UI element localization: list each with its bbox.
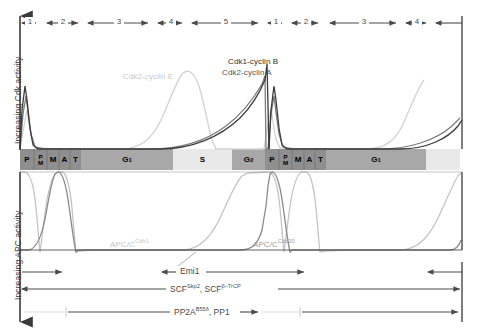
phase-cell-p-1: P bbox=[20, 149, 34, 170]
phase-cell-pm-2: P M bbox=[279, 149, 292, 170]
scf-sup2: β–TrCP bbox=[221, 283, 240, 289]
segment-number-c2-2: 2 bbox=[301, 17, 311, 26]
phase-label: A bbox=[62, 155, 68, 164]
curve-label-cdk2-cyclin-a: Cdk2-cyclin A bbox=[222, 68, 272, 77]
phase-label: A bbox=[307, 155, 313, 164]
segment-number-c2-4: 4 bbox=[412, 17, 422, 26]
emi1-text: Emi1 bbox=[180, 266, 199, 276]
phase-label-m: M bbox=[38, 160, 43, 166]
segment-number-c1-4: 4 bbox=[166, 17, 176, 26]
phase-cell-t-2: T bbox=[315, 149, 326, 170]
phase-label-m: M bbox=[283, 160, 288, 166]
segment-number-c1-3: 3 bbox=[114, 17, 124, 26]
phase-label-sub: 2 bbox=[250, 157, 253, 163]
curve-label-cdk1-cyclin-b: Cdk1-cyclin B bbox=[228, 57, 278, 66]
curve-label-apc-cdh1: APC/CCdh1 bbox=[110, 238, 149, 249]
curve-cdk2-cyclin-a bbox=[20, 76, 268, 149]
scf-text: SCF bbox=[170, 284, 187, 294]
segment-number-c2-1: 1 bbox=[271, 17, 281, 26]
curve-label-apc-cdc20: APC/CCdc20 bbox=[253, 238, 295, 249]
phase-cell-m-1: M bbox=[47, 149, 59, 170]
pp2a-sup: B55δ bbox=[196, 306, 209, 312]
curve-cdk2-cyclin-e bbox=[20, 71, 264, 149]
annotation-scf: SCFSkp2, SCFβ–TrCP bbox=[168, 283, 243, 294]
segment-number-c1-1: 1 bbox=[25, 17, 35, 26]
curve-cdk2-cyclin-e-cycle2 bbox=[264, 80, 424, 149]
pp2a-text: PP2A bbox=[174, 307, 196, 317]
phase-cell-g2: G2 bbox=[232, 149, 265, 170]
apc-axis-label: Increasing APC activity bbox=[13, 211, 23, 300]
phase-cell-a-1: A bbox=[59, 149, 70, 170]
phase-cell-s: S bbox=[173, 149, 232, 170]
apc-cdc20-sup: Cdc20 bbox=[278, 238, 295, 244]
phase-label: M bbox=[295, 155, 302, 164]
phase-cell-a-2: A bbox=[304, 149, 315, 170]
segment-number-c1-2: 2 bbox=[58, 17, 68, 26]
segment-number-c2-3: 3 bbox=[359, 17, 369, 26]
phase-label-stacked: P M bbox=[283, 154, 288, 166]
apc-cdc20-text: APC/C bbox=[253, 240, 278, 249]
segment-number-c1-5: 5 bbox=[221, 17, 231, 26]
phase-label-sub: 1 bbox=[377, 157, 380, 163]
curve-cdk2-cyclin-a-cycle2 bbox=[268, 96, 460, 149]
phase-label: M bbox=[50, 155, 57, 164]
phase-label: P bbox=[24, 155, 29, 164]
phase-label: T bbox=[73, 155, 78, 164]
apc-cdh1-sup: Cdh1 bbox=[135, 238, 149, 244]
phase-cell-t-1: T bbox=[70, 149, 81, 170]
curve-cdk1-cyclin-b-cycle2 bbox=[269, 86, 462, 149]
pp2a-text2: , PP1 bbox=[209, 307, 230, 317]
annotation-pp2a: PP2AB55δ, PP1 bbox=[172, 306, 232, 317]
phase-label: T bbox=[318, 155, 323, 164]
phase-label-stacked: P M bbox=[38, 154, 43, 166]
phase-cell-g1-1: G1 bbox=[81, 149, 173, 170]
scf-sup: Skp2 bbox=[187, 283, 200, 289]
scf-text2: , SCF bbox=[200, 284, 222, 294]
apc-cdh1-text: APC/C bbox=[110, 240, 135, 249]
phase-label-sub: 1 bbox=[128, 157, 131, 163]
curve-apc-cdh1-cycle2 bbox=[268, 172, 461, 252]
pp2a-row bbox=[24, 307, 458, 317]
emi1-row bbox=[22, 252, 462, 272]
cdk-axis-label: Increasing Cdk activity bbox=[13, 57, 23, 144]
phase-label: S bbox=[200, 155, 205, 164]
phase-label: P bbox=[269, 155, 274, 164]
phase-cell-pm-1: P M bbox=[34, 149, 47, 170]
phase-cell-m-2: M bbox=[292, 149, 304, 170]
curve-label-cdk2-cyclin-e: Cdk2-cyclin E bbox=[123, 72, 173, 81]
apc-curves bbox=[20, 172, 461, 252]
phase-cell-p-2: P bbox=[265, 149, 279, 170]
annotation-emi1: Emi1 bbox=[178, 266, 201, 276]
cell-cycle-diagram: Increasing Cdk activity Increasing APC a… bbox=[0, 0, 477, 335]
phase-cell-g1-2: G1 bbox=[326, 149, 426, 170]
